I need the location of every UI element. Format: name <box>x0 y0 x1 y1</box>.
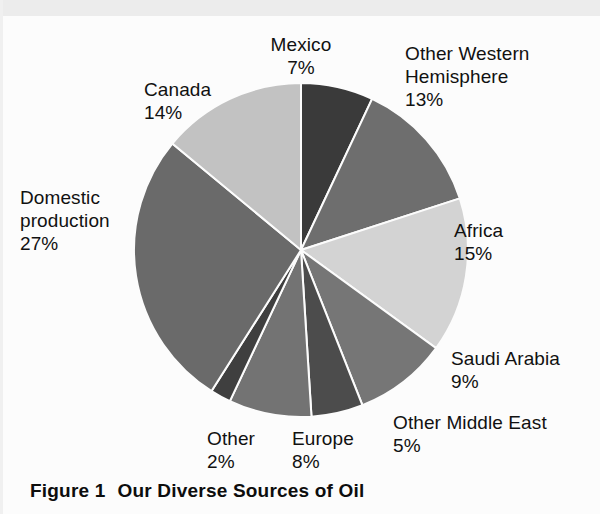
pie-chart: Canada 14% Mexico 7% Other Western Hemis… <box>0 0 600 470</box>
pie-label-saudi-arabia: Saudi Arabia 9% <box>451 347 560 393</box>
figure-container: Canada 14% Mexico 7% Other Western Hemis… <box>0 0 600 514</box>
pie-label-canada: Canada 14% <box>144 78 211 124</box>
pie-label-other-middle-east: Other Middle East 5% <box>393 411 547 457</box>
pie-label-other-western-hemisphere: Other Western Hemisphere 13% <box>405 42 530 111</box>
figure-caption-number: Figure 1 <box>30 480 106 501</box>
pie-label-domestic-production: Domestic production 27% <box>20 186 110 255</box>
pie-label-other: Other 2% <box>207 427 255 473</box>
pie-label-europe: Europe 8% <box>292 427 354 473</box>
figure-caption: Figure 1Our Diverse Sources of Oil <box>30 480 365 502</box>
pie-label-africa: Africa 15% <box>454 219 503 265</box>
pie-label-mexico: Mexico 7% <box>249 33 353 79</box>
figure-caption-title: Our Diverse Sources of Oil <box>118 480 365 501</box>
